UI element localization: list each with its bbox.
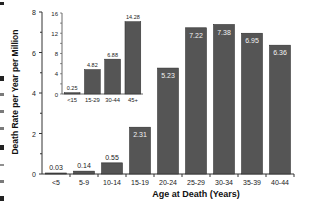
x-tick-label: 40-44 bbox=[271, 179, 289, 186]
inset-data-label: 4.82 bbox=[87, 62, 98, 68]
inset-data-label: 6.88 bbox=[107, 52, 118, 58]
data-label: 5.23 bbox=[161, 72, 175, 79]
y-tick-label: 2 bbox=[32, 131, 36, 138]
inset-bar-15-29 bbox=[84, 70, 100, 94]
inset-bar-45+ bbox=[125, 22, 141, 94]
y-tick-label: 6 bbox=[32, 50, 36, 57]
data-label: 6.36 bbox=[273, 49, 287, 56]
x-tick-label: 15-19 bbox=[131, 179, 149, 186]
inset-y-tick-label: 16 bbox=[51, 11, 58, 17]
x-axis-label: Age at Death (Years) bbox=[152, 189, 240, 199]
adjacent-text-fragment bbox=[0, 164, 4, 166]
data-label: 0.14 bbox=[77, 162, 91, 169]
y-axis-label: Death Rate per Year per Million bbox=[10, 29, 20, 154]
inset-data-label: 0.25 bbox=[67, 85, 78, 91]
adjacent-text-fragment bbox=[0, 76, 4, 81]
bar-<5 bbox=[46, 173, 67, 174]
chart-canvas: 02468<55-910-1415-1920-2425-2930-3435-39… bbox=[0, 0, 309, 210]
adjacent-text-fragment bbox=[0, 127, 4, 130]
x-tick-label: 10-14 bbox=[103, 179, 121, 186]
bar-10-14 bbox=[102, 163, 123, 174]
adjacent-text-fragment bbox=[0, 145, 4, 150]
data-label: 6.95 bbox=[245, 37, 259, 44]
inset-data-label: 14.28 bbox=[126, 14, 140, 20]
inset-y-tick-label: 0 bbox=[55, 92, 59, 98]
data-label: 7.38 bbox=[217, 29, 231, 36]
x-tick-label: 30-34 bbox=[215, 179, 233, 186]
adjacent-text-fragment bbox=[0, 196, 4, 201]
inset-x-tick-label: 15-29 bbox=[85, 97, 100, 103]
y-tick-label: 4 bbox=[32, 90, 36, 97]
adjacent-text-fragment bbox=[0, 110, 4, 113]
adjacent-text-fragment bbox=[0, 93, 4, 96]
data-label: 7.22 bbox=[189, 32, 203, 39]
data-label: 2.31 bbox=[133, 131, 147, 138]
bar-35-39 bbox=[242, 33, 263, 174]
x-tick-label: 5-9 bbox=[79, 179, 89, 186]
adjacent-text-fragment bbox=[0, 2, 4, 5]
x-tick-label: 35-39 bbox=[243, 179, 261, 186]
inset-bar-30-44 bbox=[105, 59, 121, 94]
bar-30-34 bbox=[214, 25, 235, 174]
data-label: 0.55 bbox=[105, 154, 119, 161]
bar-5-9 bbox=[74, 171, 95, 174]
inset-x-tick-label: <15 bbox=[67, 97, 77, 103]
bar-20-24 bbox=[158, 68, 179, 174]
y-tick-label: 0 bbox=[32, 171, 36, 178]
inset-x-tick-label: 30-44 bbox=[105, 97, 121, 103]
inset-chart: 0481216<150.2515-294.8230-446.8845+14.28 bbox=[51, 9, 146, 106]
data-label: 0.03 bbox=[49, 164, 63, 171]
inset-x-tick-label: 45+ bbox=[128, 97, 138, 103]
inset-y-tick-label: 8 bbox=[55, 51, 59, 57]
inset-bar-<15 bbox=[64, 93, 80, 94]
inset-y-tick-label: 12 bbox=[51, 31, 58, 37]
bar-25-29 bbox=[186, 28, 207, 174]
y-tick-label: 8 bbox=[32, 9, 36, 16]
adjacent-text-fragment bbox=[0, 180, 4, 183]
x-tick-label: 25-29 bbox=[187, 179, 205, 186]
x-tick-label: <5 bbox=[52, 179, 60, 186]
x-tick-label: 20-24 bbox=[159, 179, 177, 186]
inset-y-tick-label: 4 bbox=[55, 71, 59, 77]
bar-40-44 bbox=[270, 45, 291, 174]
